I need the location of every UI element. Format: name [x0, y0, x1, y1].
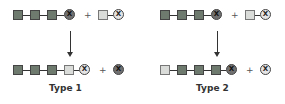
x-group-dark: X: [226, 64, 237, 75]
plus-sign: +: [84, 11, 92, 20]
reaction-arrow-shaft: [217, 31, 218, 53]
dark-unit: [13, 10, 23, 20]
plus-sign: +: [231, 11, 239, 20]
arrow-head-icon: [214, 52, 220, 57]
arrow-head-icon: [67, 52, 73, 57]
x-group-dark: X: [64, 9, 75, 20]
light-unit: [98, 10, 108, 20]
x-group-dark: X: [211, 9, 222, 20]
bond: [40, 70, 47, 71]
bond: [57, 15, 64, 16]
dark-unit: [194, 65, 204, 75]
bond: [170, 70, 177, 71]
bond: [187, 15, 194, 16]
bond: [57, 70, 64, 71]
light-unit: [160, 65, 170, 75]
bond: [204, 70, 211, 71]
type1-label: Type 1: [49, 83, 82, 93]
bond: [204, 15, 211, 16]
x-group-light: X: [79, 64, 90, 75]
dark-unit: [30, 65, 40, 75]
dark-unit: [47, 10, 57, 20]
dark-unit: [47, 65, 57, 75]
type2-label: Type 2: [196, 83, 229, 93]
dark-unit: [177, 65, 187, 75]
light-unit: [64, 65, 74, 75]
plus-sign: +: [246, 66, 254, 75]
dark-unit: [194, 10, 204, 20]
bond: [23, 70, 30, 71]
dark-unit: [13, 65, 23, 75]
x-group-light: X: [113, 9, 124, 20]
bond: [23, 15, 30, 16]
dark-unit: [211, 65, 221, 75]
bond: [40, 15, 47, 16]
x-group-light: X: [260, 9, 271, 20]
reaction-arrow-shaft: [70, 31, 71, 53]
x-group-dark: X: [113, 64, 124, 75]
dark-unit: [160, 10, 170, 20]
plus-sign: +: [99, 66, 107, 75]
bond: [170, 15, 177, 16]
dark-unit: [30, 10, 40, 20]
dark-unit: [177, 10, 187, 20]
x-group-light: X: [260, 64, 271, 75]
bond: [187, 70, 194, 71]
light-unit: [245, 10, 255, 20]
